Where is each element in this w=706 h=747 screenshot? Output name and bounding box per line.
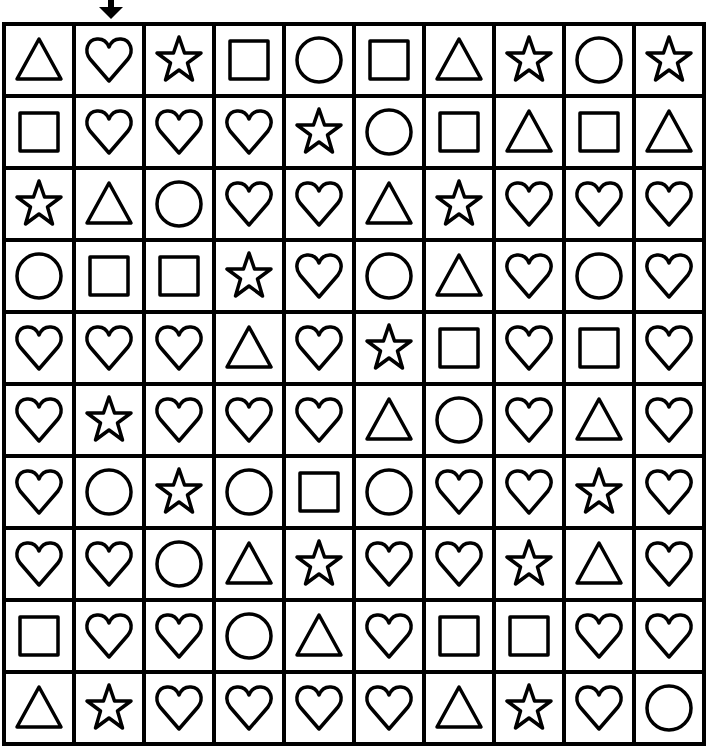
grid-cell[interactable] [146, 530, 216, 602]
grid-cell[interactable] [356, 170, 426, 242]
grid-cell[interactable] [636, 98, 706, 170]
grid-cell[interactable] [356, 674, 426, 746]
grid-cell[interactable] [356, 458, 426, 530]
grid-cell[interactable] [216, 530, 286, 602]
grid-cell[interactable] [146, 170, 216, 242]
grid-cell[interactable] [286, 602, 356, 674]
grid-cell[interactable] [286, 242, 356, 314]
grid-cell[interactable] [426, 170, 496, 242]
grid-cell[interactable] [146, 602, 216, 674]
grid-cell[interactable] [286, 314, 356, 386]
grid-cell[interactable] [6, 530, 76, 602]
grid-cell[interactable] [146, 98, 216, 170]
grid-cell[interactable] [636, 242, 706, 314]
grid-cell[interactable] [636, 386, 706, 458]
grid-cell[interactable] [496, 674, 566, 746]
grid-cell[interactable] [426, 530, 496, 602]
grid-cell[interactable] [216, 386, 286, 458]
grid-cell[interactable] [286, 386, 356, 458]
grid-cell[interactable] [76, 458, 146, 530]
grid-cell[interactable] [286, 530, 356, 602]
grid-cell[interactable] [6, 386, 76, 458]
grid-cell[interactable] [426, 458, 496, 530]
grid-cell[interactable] [566, 242, 636, 314]
grid-cell[interactable] [76, 530, 146, 602]
grid-cell[interactable] [566, 602, 636, 674]
grid-cell[interactable] [566, 458, 636, 530]
grid-cell[interactable] [496, 386, 566, 458]
grid-cell[interactable] [146, 386, 216, 458]
grid-cell[interactable] [216, 26, 286, 98]
grid-cell[interactable] [496, 98, 566, 170]
grid-cell[interactable] [6, 170, 76, 242]
grid-cell[interactable] [6, 314, 76, 386]
grid-cell[interactable] [636, 530, 706, 602]
grid-cell[interactable] [76, 386, 146, 458]
grid-cell[interactable] [496, 242, 566, 314]
grid-cell[interactable] [216, 170, 286, 242]
grid-cell[interactable] [216, 602, 286, 674]
grid-cell[interactable] [286, 26, 356, 98]
grid-cell[interactable] [636, 458, 706, 530]
grid-cell[interactable] [566, 530, 636, 602]
grid-cell[interactable] [426, 674, 496, 746]
grid-cell[interactable] [216, 314, 286, 386]
grid-cell[interactable] [6, 98, 76, 170]
grid-cell[interactable] [76, 242, 146, 314]
grid-cell[interactable] [496, 170, 566, 242]
grid-cell[interactable] [356, 530, 426, 602]
grid-cell[interactable] [286, 674, 356, 746]
grid-cell[interactable] [566, 170, 636, 242]
grid-cell[interactable] [566, 386, 636, 458]
grid-cell[interactable] [146, 242, 216, 314]
grid-cell[interactable] [6, 674, 76, 746]
grid-cell[interactable] [76, 674, 146, 746]
grid-cell[interactable] [566, 26, 636, 98]
grid-cell[interactable] [76, 170, 146, 242]
grid-cell[interactable] [146, 314, 216, 386]
grid-cell[interactable] [636, 602, 706, 674]
grid-cell[interactable] [286, 98, 356, 170]
grid-cell[interactable] [286, 458, 356, 530]
grid-cell[interactable] [76, 602, 146, 674]
grid-cell[interactable] [356, 386, 426, 458]
grid-cell[interactable] [76, 26, 146, 98]
grid-cell[interactable] [496, 314, 566, 386]
grid-cell[interactable] [146, 26, 216, 98]
grid-cell[interactable] [6, 602, 76, 674]
grid-cell[interactable] [356, 314, 426, 386]
grid-cell[interactable] [356, 98, 426, 170]
grid-cell[interactable] [356, 242, 426, 314]
grid-cell[interactable] [426, 386, 496, 458]
grid-cell[interactable] [566, 98, 636, 170]
grid-cell[interactable] [146, 674, 216, 746]
grid-cell[interactable] [636, 170, 706, 242]
grid-cell[interactable] [216, 674, 286, 746]
grid-cell[interactable] [216, 458, 286, 530]
grid-cell[interactable] [566, 674, 636, 746]
grid-cell[interactable] [76, 98, 146, 170]
grid-cell[interactable] [76, 314, 146, 386]
grid-cell[interactable] [426, 26, 496, 98]
grid-cell[interactable] [636, 26, 706, 98]
grid-cell[interactable] [426, 314, 496, 386]
grid-cell[interactable] [286, 170, 356, 242]
grid-cell[interactable] [356, 26, 426, 98]
grid-cell[interactable] [356, 602, 426, 674]
grid-cell[interactable] [6, 26, 76, 98]
grid-cell[interactable] [636, 674, 706, 746]
grid-cell[interactable] [496, 530, 566, 602]
grid-cell[interactable] [496, 458, 566, 530]
grid-cell[interactable] [496, 602, 566, 674]
grid-cell[interactable] [566, 314, 636, 386]
grid-cell[interactable] [216, 242, 286, 314]
grid-cell[interactable] [426, 602, 496, 674]
grid-cell[interactable] [426, 98, 496, 170]
grid-cell[interactable] [6, 242, 76, 314]
grid-cell[interactable] [146, 458, 216, 530]
grid-cell[interactable] [216, 98, 286, 170]
grid-cell[interactable] [6, 458, 76, 530]
grid-cell[interactable] [636, 314, 706, 386]
grid-cell[interactable] [496, 26, 566, 98]
grid-cell[interactable] [426, 242, 496, 314]
